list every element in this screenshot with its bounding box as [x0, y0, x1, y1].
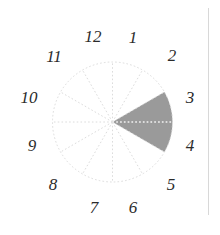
clock-diagram — [0, 0, 220, 235]
hour-label-7: 7 — [90, 199, 99, 216]
hour-label-5: 5 — [167, 176, 176, 193]
hour-label-1: 1 — [129, 29, 138, 46]
hour-label-4: 4 — [186, 137, 195, 154]
hour-spoke-7 — [83, 122, 113, 174]
hour-spoke-10 — [61, 92, 113, 122]
clock-sector-figure: 121234567891011 — [0, 0, 220, 235]
hour-label-11: 11 — [46, 48, 62, 65]
hour-spoke-8 — [61, 122, 113, 152]
hour-label-12: 12 — [85, 28, 102, 45]
hour-label-8: 8 — [49, 176, 58, 193]
hour-label-10: 10 — [21, 89, 38, 106]
hour-spoke-11 — [83, 70, 113, 122]
hour-label-3: 3 — [186, 89, 195, 106]
hour-label-2: 2 — [168, 47, 177, 64]
right-border-rule — [208, 8, 209, 215]
hour-label-6: 6 — [129, 199, 138, 216]
hour-label-9: 9 — [28, 137, 37, 154]
